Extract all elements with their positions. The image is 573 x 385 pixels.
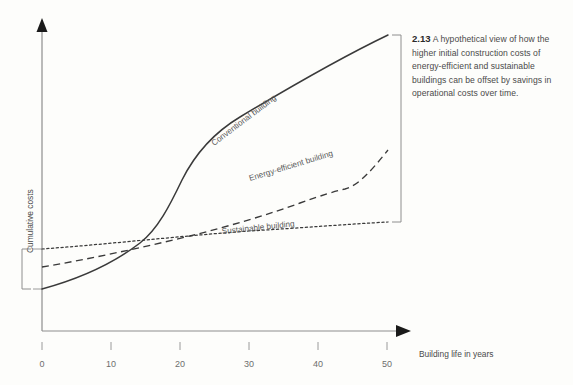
x-axis-ticks	[42, 342, 387, 350]
x-tick-label-30: 30	[244, 359, 254, 369]
x-tick-label-40: 40	[313, 359, 323, 369]
series-line-sustainable-building	[42, 222, 388, 249]
lifetime-cost-bracket	[392, 35, 401, 222]
series-label-conventional-building: Conventional building	[210, 93, 278, 148]
x-tick-label-0: 0	[39, 359, 44, 369]
figure-caption: 2.13 A hypothetical view of how the high…	[412, 32, 562, 101]
y-axis-ticks	[33, 249, 42, 289]
series-label-energy-efficient-building: Energy-efficient building	[248, 149, 334, 183]
y-axis-title: Cumulative costs	[25, 189, 35, 253]
x-axis-title: Building life in years	[419, 349, 493, 359]
x-axis	[42, 325, 411, 337]
x-tick-label-20: 20	[175, 359, 185, 369]
initial-cost-bracket	[22, 249, 31, 289]
x-tick-label-50: 50	[382, 359, 392, 369]
figure-number: 2.13	[412, 33, 431, 44]
series-label-sustainable-building: Sustainable building	[221, 219, 295, 236]
series-line-energy-efficient-building	[42, 150, 388, 267]
x-tick-label-10: 10	[106, 359, 116, 369]
figure-2-13: 0 10 20 30 40 50 Building life in years …	[0, 0, 573, 385]
y-axis	[37, 18, 48, 331]
series-line-conventional-building	[42, 35, 388, 289]
figure-caption-text: A hypothetical view of how the higher in…	[412, 34, 551, 98]
